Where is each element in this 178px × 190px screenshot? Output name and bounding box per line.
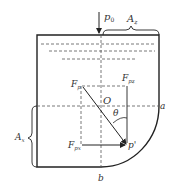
fpx-label: Fpx [67, 140, 82, 152]
pprime-label: p' [128, 140, 136, 150]
curved-surface-diagram: p0 Az Fp Fpz O θ a Fpx p' b Ax [0, 0, 178, 190]
az-brace [103, 26, 159, 35]
fp-label: Fp [70, 79, 81, 91]
ax-brace [28, 106, 37, 167]
theta-arc [113, 118, 127, 123]
az-label: Az [126, 13, 138, 25]
container-outline [37, 35, 159, 167]
b-label: b [98, 173, 104, 183]
a-label: a [160, 101, 165, 111]
o-label: O [103, 95, 111, 106]
p0-label: p0 [104, 11, 114, 23]
ax-label: Ax [14, 132, 26, 143]
theta-label: θ [113, 108, 119, 118]
fpz-label: Fpz [121, 73, 135, 85]
